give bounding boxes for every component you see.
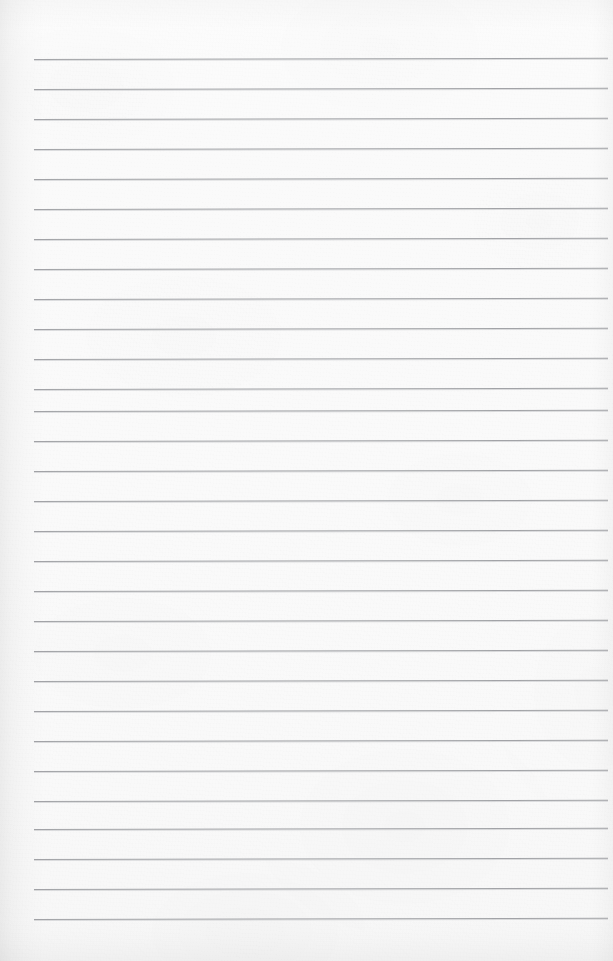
paper-background — [0, 0, 613, 961]
lined-paper-page — [0, 0, 613, 961]
